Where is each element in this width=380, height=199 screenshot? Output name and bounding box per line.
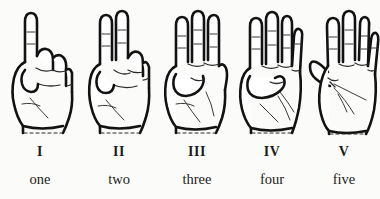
word-cell-one: one bbox=[0, 164, 80, 194]
hand-one-icon bbox=[0, 0, 80, 140]
numeral-cell-two: II bbox=[80, 140, 158, 164]
numeral-two: II bbox=[113, 144, 125, 160]
hand-illustration-five bbox=[308, 0, 380, 140]
word-three: three bbox=[183, 171, 212, 188]
word-cell-three: three bbox=[158, 164, 236, 194]
hand-illustration-two bbox=[80, 0, 158, 140]
hand-four-icon bbox=[236, 0, 308, 140]
roman-numeral-labels-row: I II III IV V bbox=[0, 140, 380, 164]
numeral-four: IV bbox=[264, 144, 281, 160]
word-four: four bbox=[260, 171, 284, 188]
counting-hands-figure: I II III IV V one two three four five bbox=[0, 0, 380, 199]
hand-three-icon bbox=[158, 0, 236, 140]
word-two: two bbox=[108, 171, 130, 188]
numeral-cell-three: III bbox=[158, 140, 236, 164]
word-one: one bbox=[30, 171, 51, 188]
hand-illustrations-row bbox=[0, 0, 380, 140]
hand-two-icon bbox=[80, 0, 158, 140]
numeral-one: I bbox=[37, 144, 43, 160]
numeral-cell-four: IV bbox=[236, 140, 308, 164]
hand-illustration-one bbox=[0, 0, 80, 140]
numeral-three: III bbox=[188, 144, 206, 160]
hand-five-icon bbox=[308, 0, 380, 140]
hand-illustration-four bbox=[236, 0, 308, 140]
word-labels-row: one two three four five bbox=[0, 164, 380, 194]
numeral-five: V bbox=[339, 144, 350, 160]
hand-illustration-three bbox=[158, 0, 236, 140]
numeral-cell-five: V bbox=[308, 140, 380, 164]
word-cell-five: five bbox=[308, 164, 380, 194]
word-cell-four: four bbox=[236, 164, 308, 194]
word-cell-two: two bbox=[80, 164, 158, 194]
numeral-cell-one: I bbox=[0, 140, 80, 164]
word-five: five bbox=[333, 171, 356, 188]
